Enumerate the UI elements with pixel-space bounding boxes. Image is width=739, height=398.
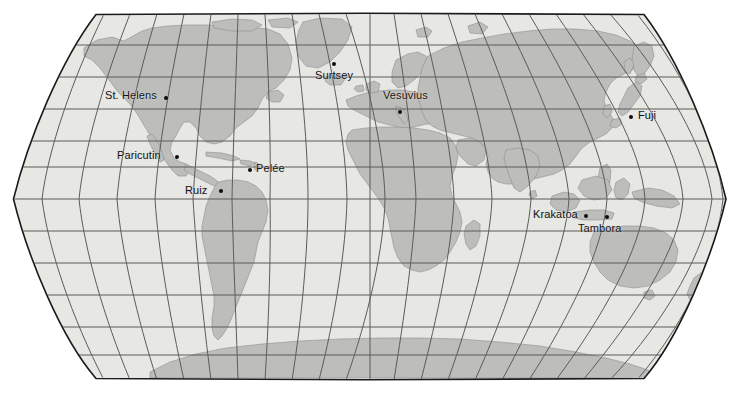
volcano-label: Paricutin bbox=[117, 150, 161, 161]
volcano-marker-dot bbox=[398, 110, 402, 114]
volcano-label: Surtsey bbox=[315, 70, 353, 81]
volcano-marker-dot bbox=[605, 215, 609, 219]
volcano-marker-dot bbox=[332, 62, 336, 66]
volcano-marker-dot bbox=[164, 96, 168, 100]
volcano-label: Vesuvius bbox=[383, 90, 428, 101]
volcano-label: Krakatoa bbox=[533, 209, 578, 220]
volcano-label: Tambora bbox=[578, 223, 622, 234]
volcano-label: Fuji bbox=[638, 110, 656, 121]
volcano-label: Pelée bbox=[256, 163, 285, 174]
volcano-label: Ruiz bbox=[185, 185, 207, 196]
volcano-marker-dot bbox=[175, 155, 179, 159]
volcano-marker-dot bbox=[629, 115, 633, 119]
volcano-marker-dot bbox=[219, 189, 223, 193]
world-map-svg bbox=[0, 0, 739, 398]
world-volcano-map-figure: · · · · · · · · · · · · · · · · · · · bbox=[0, 0, 739, 398]
volcano-marker-dot bbox=[248, 168, 252, 172]
volcano-marker-dot bbox=[584, 214, 588, 218]
volcano-label: St. Helens bbox=[105, 90, 157, 101]
